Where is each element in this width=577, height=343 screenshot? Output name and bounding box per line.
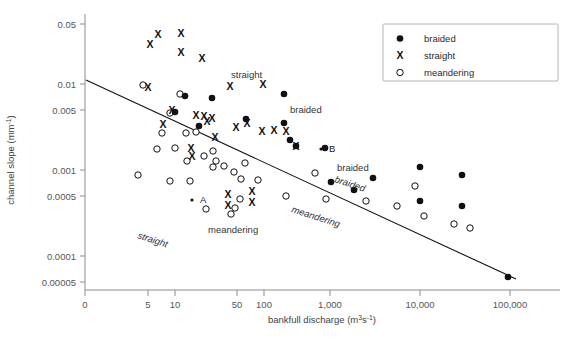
data-point-straight: X (177, 46, 184, 58)
data-point-meandering (210, 164, 216, 170)
data-point-meandering (228, 211, 234, 217)
annotation-braided: braided (333, 173, 367, 193)
legend-label-braided: braided (424, 33, 456, 44)
data-point-meandering (135, 172, 141, 178)
point-label-B: B (329, 143, 335, 154)
data-point-meandering (154, 146, 160, 152)
data-point-straight: X (226, 80, 233, 92)
data-point-braided (209, 95, 216, 102)
x-axis-title-end: ) (373, 314, 376, 325)
data-point-straight: X (144, 81, 151, 93)
annotation-straight: straight (136, 229, 169, 249)
figure-container: 0.050.010.0050.0010.00050.00010.00005 05… (0, 0, 577, 343)
data-point-braided (417, 164, 424, 171)
data-point-straight: X (198, 52, 205, 64)
data-point-meandering (203, 206, 209, 212)
data-point-meandering (312, 170, 318, 176)
data-point-straight: X (188, 150, 195, 162)
data-point-braided (243, 116, 250, 123)
data-point-meandering (213, 158, 219, 164)
data-point-meandering (238, 176, 244, 182)
data-point-braided (370, 175, 377, 182)
legend-marker-straight: X (396, 49, 403, 61)
legend-label-straight: straight (424, 50, 456, 61)
legend-marker-braided (397, 35, 404, 42)
data-point-meandering (232, 205, 238, 211)
svg-text:channel slope (mm-1): channel slope (mm-1) (5, 115, 16, 204)
point-marker-A (190, 198, 193, 201)
y-axis-title-end: ) (5, 115, 16, 118)
y-tick-label: 0.0001 (47, 251, 76, 262)
data-point-meandering (183, 130, 189, 136)
x-tick-label: 50 (232, 299, 243, 310)
data-point-straight: X (258, 125, 265, 137)
plot-annotations: straightbraidedbraidedmeanderingstraight… (136, 69, 368, 250)
data-point-braided (196, 123, 203, 130)
data-point-straight: X (282, 125, 289, 137)
data-point-braided (505, 274, 512, 281)
data-point-straight: X (232, 121, 239, 133)
point-label-A: A (200, 194, 207, 205)
data-point-meandering (221, 163, 227, 169)
x-axis-ticks: 0510501001,00010,000100,000 (82, 290, 527, 310)
legend-label-meandering: meandering (424, 67, 474, 78)
legend: braidedXstraightmeandering (383, 24, 558, 81)
data-point-meandering (255, 177, 261, 183)
y-tick-label: 0.0005 (47, 191, 76, 202)
data-point-braided (172, 109, 179, 116)
data-point-braided (417, 198, 424, 205)
data-point-meandering (201, 153, 207, 159)
data-point-straight: X (159, 118, 166, 130)
y-tick-label: 0.005 (52, 105, 76, 116)
data-point-meandering (187, 178, 193, 184)
point-marker-B (319, 147, 322, 150)
data-point-straight: X (192, 109, 199, 121)
annotation-meandering: meandering (208, 224, 258, 235)
data-point-braided (182, 93, 189, 100)
data-point-braided (281, 91, 288, 98)
data-point-meandering (193, 129, 199, 135)
y-axis-ticks: 0.050.010.0050.0010.00050.00010.00005 (42, 19, 85, 288)
annotation-meandering: meandering (290, 203, 342, 229)
data-point-meandering (467, 225, 473, 231)
data-point-straight: X (211, 131, 218, 143)
x-tick-label: 10,000 (405, 299, 434, 310)
x-axis-title: bankfull discharge (m3s-1) (268, 314, 376, 325)
y-tick-label: 0.05 (58, 19, 77, 30)
data-point-meandering (412, 183, 418, 189)
data-point-meandering (283, 193, 289, 199)
x-tick-label: 1,000 (318, 299, 342, 310)
annotation-braided: braided (290, 104, 322, 115)
data-point-straight: X (146, 38, 153, 50)
data-point-straight: X (224, 199, 231, 211)
data-point-meandering (323, 196, 329, 202)
data-point-braided (281, 120, 288, 127)
y-axis-title-main: channel slope (mm (5, 124, 16, 204)
data-point-meandering (421, 213, 427, 219)
data-point-braided (322, 145, 329, 152)
data-point-braided (459, 172, 466, 179)
legend-marker-meandering (397, 69, 403, 75)
data-point-meandering (451, 221, 457, 227)
data-point-straight: X (154, 28, 161, 40)
x-tick-label: 100,000 (493, 299, 527, 310)
x-tick-label: 5 (145, 299, 150, 310)
data-point-meandering (159, 130, 165, 136)
y-tick-label: 0.001 (52, 165, 76, 176)
data-point-meandering (210, 148, 216, 154)
x-tick-label: 10 (170, 299, 181, 310)
data-point-braided (459, 203, 466, 210)
annotation-straight: straight (231, 69, 263, 80)
scatter-plot: 0.050.010.0050.0010.00050.00010.00005 05… (0, 0, 577, 343)
data-point-meandering (237, 196, 243, 202)
y-tick-label: 0.01 (58, 79, 77, 90)
data-point-straight: X (248, 196, 255, 208)
data-point-meandering (363, 198, 369, 204)
y-axis-title: channel slope (mm-1) (5, 115, 16, 204)
data-point-straight: X (270, 124, 277, 136)
data-point-meandering (231, 169, 237, 175)
data-point-braided (293, 143, 300, 150)
data-point-straight: X (208, 112, 215, 124)
data-point-meandering (172, 145, 178, 151)
data-point-meandering (394, 203, 400, 209)
